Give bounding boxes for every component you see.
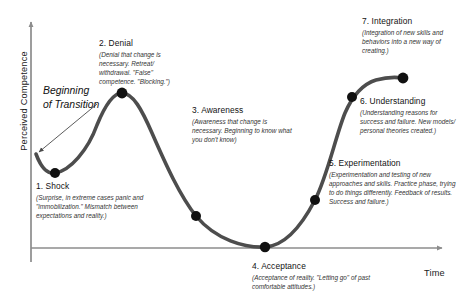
- stage-title-experimentation: 5. Experimentation: [329, 158, 457, 168]
- stage-annotation-experimentation: 5. Experimentation (Experimentation and …: [329, 158, 457, 206]
- curve-point-integration: [398, 73, 409, 84]
- stage-title-denial: 2. Denial: [99, 38, 185, 48]
- curve-point-awareness: [191, 211, 201, 221]
- stage-body-acceptance: (Acceptance of reality. "Letting go" of …: [252, 273, 376, 291]
- stage-body-experimentation: (Experimentation and testing of new appr…: [329, 170, 457, 206]
- stage-body-denial: (Denial that change is necessary. Retrea…: [99, 50, 185, 86]
- y-axis-label: Perceived Competence: [19, 31, 29, 171]
- stage-title-understanding: 6. Understanding: [360, 96, 460, 106]
- transition-note-line1: Beginning: [43, 84, 99, 98]
- curve-point-understanding: [347, 92, 357, 102]
- stage-body-understanding: (Understanding reasons for success and f…: [360, 108, 460, 135]
- stage-annotation-integration: 7. Integration (Integration of new skill…: [362, 16, 460, 55]
- stage-annotation-acceptance: 4. Acceptance (Acceptance of reality. "L…: [252, 261, 376, 291]
- stage-body-awareness: (Awareness that change is necessary. Beg…: [192, 117, 298, 144]
- stage-title-acceptance: 4. Acceptance: [252, 261, 376, 271]
- stage-annotation-understanding: 6. Understanding (Understanding reasons …: [360, 96, 460, 135]
- stage-title-shock: 1. Shock: [36, 181, 144, 191]
- stage-annotation-awareness: 3. Awareness (Awareness that change is n…: [192, 105, 298, 144]
- curve-point-denial: [117, 88, 128, 99]
- curve-point-experimentation: [310, 195, 320, 205]
- stage-body-integration: (Integration of new skills and behaviors…: [362, 28, 460, 55]
- curve-point-shock: [50, 168, 60, 178]
- stage-annotation-shock: 1. Shock (Surprise, in extreme cases pan…: [36, 181, 144, 220]
- beginning-of-transition-note: Beginning of Transition: [43, 84, 99, 111]
- stage-title-awareness: 3. Awareness: [192, 105, 298, 115]
- stage-body-shock: (Surprise, in extreme cases panic and "i…: [36, 193, 144, 220]
- curve-point-acceptance: [260, 242, 270, 252]
- transition-note-line2: of Transition: [43, 98, 99, 112]
- stage-annotation-denial: 2. Denial (Denial that change is necessa…: [99, 38, 185, 86]
- stage-title-integration: 7. Integration: [362, 16, 460, 26]
- x-axis-label: Time: [424, 268, 445, 278]
- change-curve-diagram: Perceived Competence Time Beginning of T…: [0, 0, 469, 298]
